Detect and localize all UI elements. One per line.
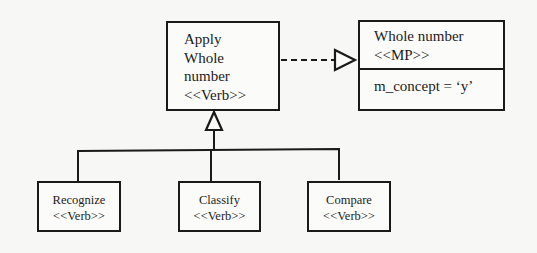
class-box-whole-number[interactable]: Whole number <<MP>> m_concept = ‘y’ <box>358 20 505 111</box>
class-box-recognize[interactable]: Recognize <<Verb>> <box>37 181 121 232</box>
class-attribute: m_concept = ‘y’ <box>360 70 503 95</box>
class-stereotype: <<Verb>> <box>180 208 259 224</box>
generalization-bus-line <box>78 149 339 181</box>
realization-arrowhead-icon <box>335 50 355 70</box>
uml-diagram: Apply Whole number <<Verb>> Whole number… <box>0 0 537 253</box>
class-name-line-3: number <box>184 67 278 86</box>
class-header: Whole number <<MP>> <box>360 22 503 70</box>
class-box-classify[interactable]: Classify <<Verb>> <box>178 181 261 232</box>
class-stereotype: <<Verb>> <box>39 208 119 224</box>
class-box-apply-whole-number[interactable]: Apply Whole number <<Verb>> <box>166 21 280 111</box>
class-name: Recognize <box>39 192 119 208</box>
class-name: Compare <box>309 192 389 208</box>
class-name: Whole number <box>374 27 503 46</box>
class-stereotype: <<Verb>> <box>309 208 389 224</box>
generalization-arrowhead-icon <box>206 112 222 130</box>
class-name: Classify <box>180 192 259 208</box>
class-stereotype: <<MP>> <box>374 46 503 65</box>
class-name-line-2: Whole <box>184 49 278 68</box>
class-name-line-1: Apply <box>184 30 278 49</box>
class-stereotype: <<Verb>> <box>184 86 278 105</box>
class-box-compare[interactable]: Compare <<Verb>> <box>307 181 391 232</box>
